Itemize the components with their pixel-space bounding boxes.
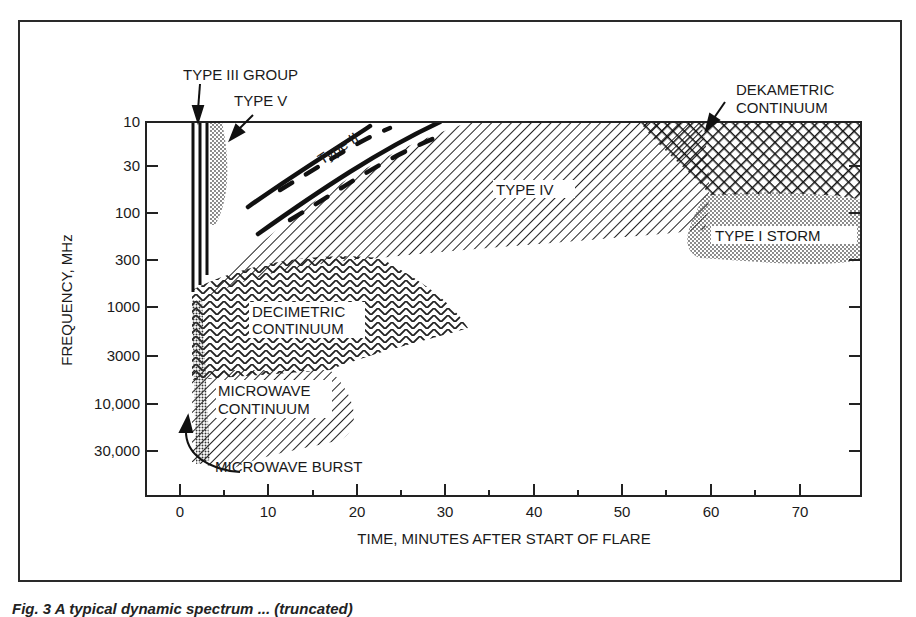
svg-text:10: 10 (123, 113, 140, 130)
svg-text:50: 50 (614, 503, 631, 520)
label-type-iv: TYPE IV (496, 181, 554, 198)
x-ticks (180, 484, 800, 496)
type-iii-group-region (193, 122, 207, 292)
svg-text:300: 300 (115, 251, 140, 268)
svg-text:0: 0 (176, 503, 184, 520)
label-microwave-1: MICROWAVE (218, 382, 311, 399)
svg-text:30: 30 (123, 157, 140, 174)
label-decimetric-2: CONTINUUM (252, 320, 344, 337)
svg-text:30: 30 (437, 503, 454, 520)
label-type-ii: Type II (314, 129, 361, 168)
label-dekametric-1: DEKAMETRIC (736, 81, 835, 98)
svg-text:30,000: 30,000 (94, 442, 140, 459)
label-type-i-storm: TYPE I STORM (715, 227, 821, 244)
svg-text:40: 40 (526, 503, 543, 520)
svg-text:3000: 3000 (107, 347, 140, 364)
type-v-region (210, 122, 227, 225)
svg-text:10,000: 10,000 (94, 395, 140, 412)
label-microwave-2: CONTINUUM (218, 400, 310, 417)
x-axis-label: TIME, MINUTES AFTER START OF FLARE (357, 530, 650, 547)
svg-text:10: 10 (260, 503, 277, 520)
svg-text:60: 60 (703, 503, 720, 520)
label-type-v: TYPE V (234, 92, 287, 109)
y-tick-labels: 10 30 100 300 1000 3000 10,000 30,000 (94, 113, 140, 459)
svg-text:1000: 1000 (107, 298, 140, 315)
figure-caption: Fig. 3 A typical dynamic spectrum ... (t… (12, 600, 353, 617)
label-type-iii-group: TYPE III GROUP (183, 66, 298, 83)
label-microwave-burst: MICROWAVE BURST (215, 458, 363, 475)
svg-text:20: 20 (349, 503, 366, 520)
svg-text:100: 100 (115, 204, 140, 221)
svg-text:70: 70 (792, 503, 809, 520)
x-tick-labels: 0 10 20 30 40 50 60 70 (176, 503, 809, 520)
label-dekametric-2: CONTINUUM (736, 99, 828, 116)
y-axis-label: FREQUENCY, MHz (58, 234, 75, 365)
label-decimetric-1: DECIMETRIC (252, 303, 346, 320)
